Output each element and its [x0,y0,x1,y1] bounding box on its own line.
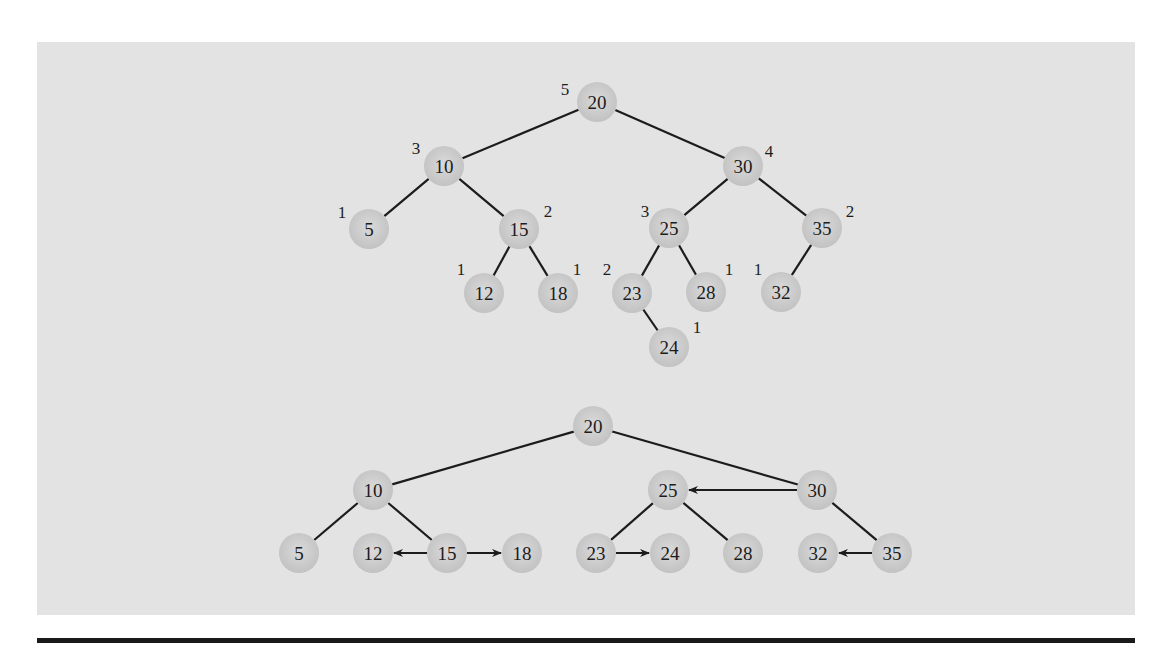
top-tree-nodes: 20510330451152253352121181232281321241 [338,80,855,367]
tree-node-24: 241 [649,318,701,367]
tree-node-23: 232 [603,260,652,313]
avl-tree-diagram: 20510330451152253352121181232281321241 2… [0,0,1168,654]
tree-node-35: 35 [872,533,912,573]
node-key-label: 12 [475,283,494,304]
tree-node-20: 20 [573,406,613,446]
edge-10-5 [314,503,358,540]
edge-20-30 [612,431,798,484]
node-key-label: 5 [364,219,374,240]
tree-node-20: 205 [561,80,617,122]
tree-node-10: 103 [412,139,464,186]
node-key-label: 10 [435,156,454,177]
node-height-label: 1 [754,260,763,279]
node-key-label: 30 [808,480,827,501]
node-key-label: 25 [659,480,678,501]
node-key-label: 23 [623,283,642,304]
node-key-label: 28 [697,282,716,303]
tree-node-28: 28 [723,533,763,573]
node-key-label: 20 [588,92,607,113]
node-key-label: 25 [660,218,679,239]
tree-node-5: 5 [279,533,319,573]
edge-25-23 [642,245,659,275]
node-height-label: 2 [603,260,612,279]
tree-node-30: 30 [797,470,837,510]
tree-node-24: 24 [650,533,690,573]
node-key-label: 12 [364,543,383,564]
node-key-label: 35 [883,543,902,564]
node-key-label: 24 [661,543,681,564]
edge-20-30 [615,110,724,158]
edge-10-15 [459,179,503,216]
node-key-label: 30 [734,156,753,177]
node-key-label: 15 [438,543,457,564]
tree-node-25: 25 [648,470,688,510]
tree-node-35: 352 [802,202,854,248]
tree-node-15: 152 [499,202,552,249]
top-tree-height-annotated: 20510330451152253352121181232281321241 [338,80,855,367]
bottom-tree-nodes: 2010253051215182324283235 [279,406,912,573]
node-key-label: 15 [510,219,529,240]
node-height-label: 3 [641,202,650,221]
node-height-label: 2 [544,202,553,221]
node-key-label: 23 [587,543,606,564]
node-key-label: 24 [660,337,680,358]
tree-node-15: 15 [427,533,467,573]
tree-node-30: 304 [723,142,774,186]
node-height-label: 1 [457,260,466,279]
tree-node-32: 32 [798,533,838,573]
top-tree-edges [384,110,811,331]
edge-15-18 [529,246,547,276]
node-key-label: 20 [584,416,603,437]
node-key-label: 18 [513,543,532,564]
edge-25-23 [611,503,653,540]
node-key-label: 35 [813,218,832,239]
node-key-label: 5 [294,543,304,564]
bottom-tree-sibling-arrows: 2010253051215182324283235 [279,406,912,573]
node-height-label: 1 [573,260,582,279]
tree-node-12: 12 [353,533,393,573]
node-key-label: 18 [549,283,568,304]
node-key-label: 32 [809,543,828,564]
node-height-label: 5 [561,80,570,99]
node-height-label: 1 [693,318,702,337]
edge-10-15 [388,503,432,540]
edge-20-10 [392,432,574,485]
tree-node-10: 10 [353,470,393,510]
edge-20-10 [462,110,578,159]
edge-15-12 [494,247,510,276]
tree-node-5: 51 [338,203,389,249]
node-height-label: 4 [765,142,774,161]
node-height-label: 1 [338,203,347,222]
bottom-rule-divider [37,638,1135,643]
tree-node-18: 18 [502,533,542,573]
edge-30-35 [759,178,807,215]
tree-node-32: 321 [754,260,801,312]
tree-node-23: 23 [576,533,616,573]
node-height-label: 3 [412,139,421,158]
node-key-label: 28 [734,543,753,564]
node-height-label: 1 [725,260,734,279]
edge-23-24 [643,309,657,330]
node-height-label: 2 [846,202,855,221]
tree-node-18: 181 [538,260,581,313]
edge-25-28 [679,245,696,274]
edge-30-25 [684,179,727,215]
edge-10-5 [384,179,428,216]
tree-node-25: 253 [641,202,689,248]
node-key-label: 10 [364,480,383,501]
node-key-label: 32 [772,282,791,303]
edge-25-28 [683,503,727,540]
edge-35-32 [792,245,811,275]
edge-30-35 [832,503,876,540]
